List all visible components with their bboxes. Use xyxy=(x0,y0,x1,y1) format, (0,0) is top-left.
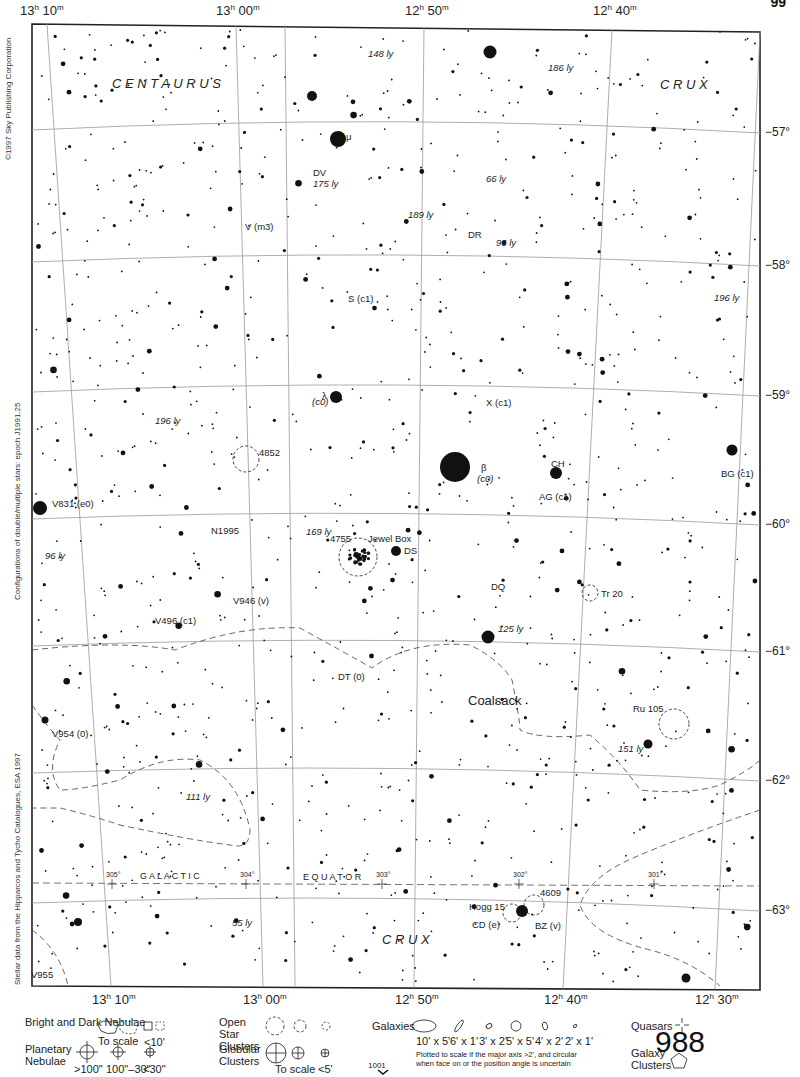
galactic-longitude-tick xyxy=(377,879,387,889)
ra-top-label-2: 12h 50m xyxy=(405,3,449,18)
stellar-data-source-note: Stellar data from the Hipparcos and Tych… xyxy=(13,753,22,985)
object-label: V496 (c1) xyxy=(155,615,196,626)
legend-globular-to-scale: To scale xyxy=(275,1063,315,1075)
star-chart: μDV175 ly148 ly186 ly66 ly189 lyV (m3)DR… xyxy=(0,0,800,1077)
object-label: AG (c1) xyxy=(539,491,572,502)
declination-grid xyxy=(32,122,760,911)
ra-top-label-3: 12h 40m xyxy=(593,3,637,18)
legend-nebulae-title: Bright and Dark Nebulae xyxy=(25,1016,145,1028)
object-label: 4609 xyxy=(540,887,561,898)
object-label: N1995 xyxy=(211,525,239,536)
dec-label-2: −59° xyxy=(765,388,790,402)
object-label: Jewel Box xyxy=(368,533,412,544)
dec-label-0: −57° xyxy=(765,125,790,139)
ra-bottom-label-4: 12h 30m xyxy=(695,992,739,1007)
galactic-longitude-tick xyxy=(241,879,251,889)
object-label: 66 ly xyxy=(486,173,507,184)
object-label: 196 ly xyxy=(714,292,741,303)
bright-star xyxy=(330,131,346,147)
legend-galaxy-size-0: 10' x 5' xyxy=(416,1035,450,1047)
bright-star xyxy=(682,974,691,983)
bright-star xyxy=(307,91,317,101)
galactic-longitude-label: 305° xyxy=(106,871,121,878)
object-label: 151 ly xyxy=(618,743,645,754)
bright-star xyxy=(484,46,497,59)
dec-label-6: −63° xyxy=(765,903,790,917)
galactic-longitude-tick xyxy=(107,879,117,889)
dec-label-5: −62° xyxy=(765,773,790,787)
galactic-equator-text: E Q U A T O R xyxy=(303,872,362,882)
next-page-arrow-icon[interactable] xyxy=(378,1070,388,1074)
bright-star xyxy=(391,546,401,556)
bright-star xyxy=(42,717,49,724)
legend-galaxy-size-3: 5' x 5' xyxy=(506,1035,534,1047)
legend-planetary-title: Planetary Nebulae xyxy=(25,1043,80,1067)
galactic-longitude-label: 301° xyxy=(648,871,663,878)
legend-planetary-size-2: <30" xyxy=(143,1063,166,1075)
object-label: 186 ly xyxy=(548,62,575,73)
object-label: DQ xyxy=(491,581,505,592)
galactic-longitude-tick xyxy=(514,879,524,889)
stars xyxy=(33,29,757,982)
object-label: BG (c1) xyxy=(721,468,754,479)
legend-galaxy-size-4: 4' x 2' xyxy=(535,1035,563,1047)
legend-galaxies-note-2: when face on or the position angle is un… xyxy=(416,1058,571,1070)
galactic-longitude-label: 302° xyxy=(513,871,528,878)
object-label: BZ (v) xyxy=(535,920,561,931)
legend-planetary-size-0: >100" xyxy=(74,1063,103,1075)
dec-label-1: −58° xyxy=(765,258,790,272)
chart-frame xyxy=(32,24,760,990)
bright-star xyxy=(74,918,82,926)
object-label: 189 ly xyxy=(408,209,435,220)
object-label: 96 ly xyxy=(496,237,517,248)
bright-star xyxy=(330,391,342,403)
ngc4852-cluster xyxy=(233,446,259,472)
object-label: 96 ly xyxy=(45,550,66,561)
object-label: 55 ly xyxy=(232,917,253,928)
object-label: CH xyxy=(551,458,565,469)
object-label: 4755 xyxy=(330,533,351,544)
object-label: 4852 xyxy=(259,447,280,458)
constellation-name: C E N T A U R U S xyxy=(112,76,221,91)
galactic-equator-text: G A L A C T I C xyxy=(140,871,200,881)
legend-galaxies-title: Galaxies xyxy=(372,1020,415,1032)
legend-globular-title: Globular Clusters xyxy=(219,1043,269,1067)
object-labels: μDV175 ly148 ly186 ly66 ly189 lyV (m3)DR… xyxy=(31,48,754,980)
legend-nebulae-small: <10' xyxy=(144,1036,165,1048)
ra-top-label-0: 13h 10m xyxy=(20,3,64,18)
bright-star xyxy=(33,501,47,515)
ra-grid xyxy=(47,24,760,989)
galactic-equator-line xyxy=(32,883,760,886)
object-label: DT (0) xyxy=(338,671,365,682)
ra-bottom-label-1: 13h 00m xyxy=(243,992,287,1007)
ra-bottom-label-0: 13h 10m xyxy=(92,992,136,1007)
object-label: V955 xyxy=(31,969,53,980)
object-label: Coalsack xyxy=(468,693,522,708)
object-label: 125 ly xyxy=(498,623,525,634)
double-star-epoch-note: Configurations of double/multiple stars:… xyxy=(13,403,22,600)
object-label: Hogg 15 xyxy=(469,901,505,912)
object-label: 111 ly xyxy=(186,791,211,802)
bright-star xyxy=(482,631,495,644)
object-label: β xyxy=(481,462,487,473)
object-label: Ru 105 xyxy=(633,703,664,714)
legend-galaxy-size-5: 2' x 1' xyxy=(565,1035,593,1047)
galactic-longitude-label: 303° xyxy=(376,871,391,878)
bright-star xyxy=(516,905,528,917)
galactic-longitude-label: 304° xyxy=(240,871,255,878)
object-label: DR xyxy=(468,229,482,240)
dec-label-4: −61° xyxy=(765,644,790,658)
legend-globular-small: <5' xyxy=(318,1063,333,1075)
bright-star xyxy=(727,445,738,456)
ra-bottom-label-2: 12h 50m xyxy=(395,992,439,1007)
object-label: μ xyxy=(346,131,351,142)
next-page-reference[interactable]: 1001 xyxy=(368,1061,386,1070)
tr20-cluster xyxy=(582,585,598,601)
object-label: X (c1) xyxy=(486,397,511,408)
object-label: DS xyxy=(404,545,417,556)
constellation-labels: C E N T A U R U SC R U XC R U X xyxy=(112,76,709,947)
object-label: 148 ly xyxy=(368,48,395,59)
corner-page-mark: 99 xyxy=(770,0,786,10)
copyright-note: ©1997 Sky Publishing Corporation xyxy=(4,38,13,160)
bright-star xyxy=(440,452,470,482)
